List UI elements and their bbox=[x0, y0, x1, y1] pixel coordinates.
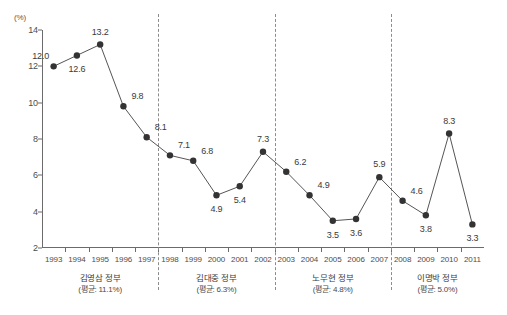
y-tick-label: 2 bbox=[33, 243, 38, 253]
data-point-marker bbox=[376, 174, 382, 180]
data-point-marker bbox=[237, 183, 243, 189]
data-point-marker bbox=[330, 218, 336, 224]
x-tick-label: 1995 bbox=[91, 255, 108, 264]
data-value-label: 3.3 bbox=[466, 233, 478, 243]
x-tick-label: 2011 bbox=[464, 255, 481, 264]
x-tick-mark bbox=[205, 248, 206, 252]
data-value-label: 8.1 bbox=[155, 122, 167, 132]
period-label-group: 노무현 정부(평균: 4.8%) bbox=[312, 272, 353, 296]
data-value-label: 3.6 bbox=[350, 228, 362, 238]
x-tick-label: 2003 bbox=[278, 255, 295, 264]
y-tick-label: 10 bbox=[28, 98, 38, 108]
data-value-label: 3.5 bbox=[327, 230, 339, 240]
data-value-label: 12.6 bbox=[69, 64, 86, 74]
x-tick-label: 1996 bbox=[115, 255, 132, 264]
data-value-label: 9.8 bbox=[131, 91, 143, 101]
data-value-label: 5.9 bbox=[373, 159, 385, 169]
y-tick-label: 14 bbox=[28, 25, 38, 35]
plot-area: 2468101214 12.012.613.29.88.17.16.84.95.… bbox=[42, 30, 484, 248]
data-value-label: 4.6 bbox=[411, 186, 423, 196]
x-tick-label: 2010 bbox=[440, 255, 457, 264]
period-name: 노무현 정부 bbox=[312, 272, 353, 284]
data-point-marker bbox=[353, 216, 359, 222]
data-value-label: 4.9 bbox=[211, 204, 223, 214]
x-tick-mark bbox=[251, 248, 252, 252]
data-value-label: 8.3 bbox=[443, 116, 455, 126]
y-axis-unit-label: (%) bbox=[14, 13, 26, 22]
y-tick-label: 12 bbox=[28, 61, 38, 71]
data-value-label: 7.3 bbox=[257, 134, 269, 144]
x-tick-mark bbox=[414, 248, 415, 252]
x-tick-label: 1999 bbox=[185, 255, 202, 264]
x-tick-label: 2008 bbox=[394, 255, 411, 264]
x-tick-mark bbox=[298, 248, 299, 252]
data-value-label: 5.4 bbox=[234, 195, 246, 205]
data-value-label: 7.1 bbox=[178, 140, 190, 150]
x-tick-mark bbox=[321, 248, 322, 252]
y-tick-label: 6 bbox=[33, 170, 38, 180]
data-point-marker bbox=[446, 130, 452, 136]
period-average: (평균: 11.1%) bbox=[78, 284, 122, 296]
data-value-label: 6.8 bbox=[201, 146, 213, 156]
period-name: 이명박 정부 bbox=[417, 272, 458, 284]
data-point-marker bbox=[423, 212, 429, 218]
x-tick-label: 2000 bbox=[208, 255, 225, 264]
x-tick-label: 1993 bbox=[45, 255, 62, 264]
data-point-marker bbox=[260, 149, 266, 155]
x-tick-label: 2006 bbox=[347, 255, 364, 264]
data-value-label: 3.8 bbox=[420, 224, 432, 234]
period-label-group: 김대중 정부(평균: 6.3%) bbox=[196, 272, 237, 296]
x-tick-label: 2001 bbox=[231, 255, 248, 264]
x-tick-mark bbox=[135, 248, 136, 252]
period-name: 김영삼 정부 bbox=[78, 272, 122, 284]
data-point-marker bbox=[213, 192, 219, 198]
chart-container: (%) 2468101214 12.012.613.29.88.17.16.84… bbox=[0, 0, 507, 315]
data-point-marker bbox=[97, 41, 103, 47]
x-tick-mark bbox=[182, 248, 183, 252]
x-tick-mark bbox=[344, 248, 345, 252]
y-tick-label: 8 bbox=[33, 134, 38, 144]
period-name: 김대중 정부 bbox=[196, 272, 237, 284]
x-tick-mark bbox=[461, 248, 462, 252]
data-point-marker bbox=[167, 152, 173, 158]
x-tick-label: 2004 bbox=[301, 255, 318, 264]
period-label-group: 이명박 정부(평균: 5.0%) bbox=[417, 272, 458, 296]
y-tick-label: 4 bbox=[33, 207, 38, 217]
x-tick-mark bbox=[112, 248, 113, 252]
data-point-marker bbox=[143, 134, 149, 140]
x-tick-label: 1998 bbox=[161, 255, 178, 264]
data-value-label: 13.2 bbox=[92, 27, 109, 37]
x-tick-label: 2005 bbox=[324, 255, 341, 264]
x-tick-mark bbox=[228, 248, 229, 252]
data-value-label: 4.9 bbox=[318, 180, 330, 190]
x-tick-mark bbox=[368, 248, 369, 252]
data-point-marker bbox=[74, 52, 80, 58]
data-point-marker bbox=[120, 103, 126, 109]
data-point-marker bbox=[306, 192, 312, 198]
x-tick-mark bbox=[65, 248, 66, 252]
x-tick-label: 1994 bbox=[68, 255, 85, 264]
data-value-label: 6.2 bbox=[294, 157, 306, 167]
data-point-marker bbox=[283, 169, 289, 175]
x-tick-label: 2002 bbox=[254, 255, 271, 264]
period-average: (평균: 6.3%) bbox=[196, 284, 237, 296]
x-tick-mark bbox=[437, 248, 438, 252]
x-tick-mark bbox=[89, 248, 90, 252]
period-average: (평균: 4.8%) bbox=[312, 284, 353, 296]
data-point-marker bbox=[399, 198, 405, 204]
x-tick-label: 2009 bbox=[417, 255, 434, 264]
x-tick-label: 1997 bbox=[138, 255, 155, 264]
data-point-marker bbox=[50, 63, 56, 69]
period-label-group: 김영삼 정부(평균: 11.1%) bbox=[78, 272, 122, 296]
data-point-marker bbox=[469, 221, 475, 227]
x-tick-label: 2007 bbox=[371, 255, 388, 264]
data-point-marker bbox=[190, 158, 196, 164]
data-value-label: 12.0 bbox=[32, 51, 49, 61]
period-average: (평균: 5.0%) bbox=[417, 284, 458, 296]
